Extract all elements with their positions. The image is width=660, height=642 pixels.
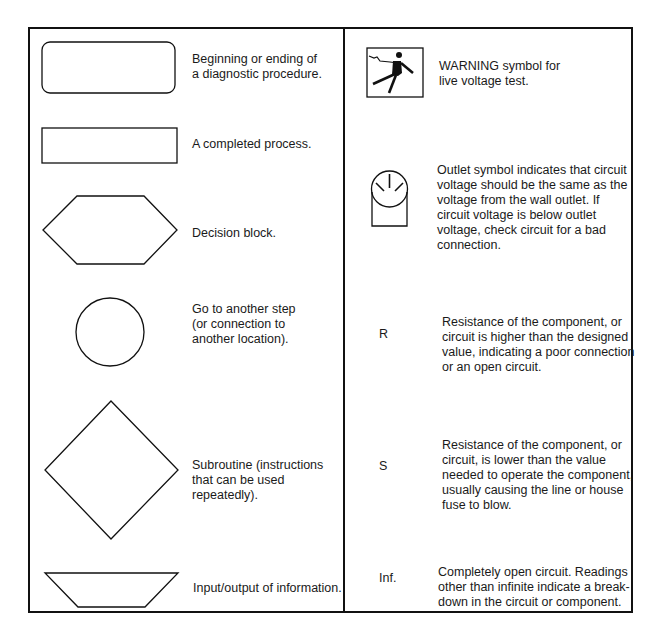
legend-item-diamond: Subroutine (instructions that can be use… — [192, 458, 323, 503]
description-line: Resistance of the component, or — [442, 438, 633, 453]
description-line: usually causing the line or house — [442, 483, 633, 498]
description-line: live voltage test. — [439, 74, 560, 89]
legend-item-rounded-rectangle: Beginning or ending of a diagnostic proc… — [192, 52, 322, 82]
description-line: Go to another step — [192, 302, 296, 317]
description-line: Decision block. — [192, 226, 276, 241]
rounded-rectangle-symbol — [42, 42, 175, 93]
description-line: other than infinite indicate a break- — [438, 580, 630, 595]
description-line: Input/output of information. — [193, 581, 342, 596]
legend-item-open-circuit: Completely open circuit. Readings other … — [438, 565, 630, 610]
description-line: fuse to blow. — [442, 498, 633, 513]
trapezoid-symbol — [45, 573, 178, 607]
description-line: circuit voltage is below outlet — [437, 208, 627, 223]
description-line: a diagnostic procedure. — [192, 67, 322, 82]
description-line: value, indicating a poor connection — [442, 345, 635, 360]
description-line: Subroutine (instructions — [192, 458, 323, 473]
legend-item-warning: WARNING symbol for live voltage test. — [439, 59, 560, 89]
legend-item-trapezoid: Input/output of information. — [193, 581, 342, 596]
legend-item-resistance-low: Resistance of the component, or circuit,… — [442, 438, 633, 513]
description-line: that can be used — [192, 473, 323, 488]
description-line: repeatedly). — [192, 488, 323, 503]
outlet-icon — [372, 171, 408, 226]
description-line: WARNING symbol for — [439, 59, 560, 74]
diamond-symbol — [45, 401, 178, 539]
description-line: Completely open circuit. Readings — [438, 565, 630, 580]
description-line: another location). — [192, 332, 296, 347]
legend-item-rectangle: A completed process. — [192, 137, 312, 152]
rectangle-symbol — [42, 128, 177, 163]
resistance-low-code: S — [379, 459, 387, 473]
warning-electric-shock-icon — [367, 48, 423, 97]
infinite-resistance-code: Inf. — [379, 571, 396, 585]
legend-item-outlet: Outlet symbol indicates that circuit vol… — [437, 163, 627, 253]
description-line: (or connection to — [192, 317, 296, 332]
description-line: or an open circuit. — [442, 360, 635, 375]
description-line: Beginning or ending of — [192, 52, 322, 67]
description-line: voltage should be the same as the — [437, 178, 627, 193]
description-line: voltage from the wall outlet. If — [437, 193, 627, 208]
description-line: Resistance of the component, or — [442, 315, 635, 330]
legend-item-resistance-high: Resistance of the component, or circuit … — [442, 315, 635, 375]
legend-item-hexagon: Decision block. — [192, 226, 276, 241]
resistance-high-code: R — [379, 327, 388, 341]
description-line: voltage, check circuit for a bad — [437, 223, 627, 238]
description-line: connection. — [437, 238, 627, 253]
description-line: down in the circuit or component. — [438, 595, 630, 610]
description-line: circuit is higher than the designed — [442, 330, 635, 345]
hexagon-symbol — [43, 196, 177, 264]
legend-item-circle: Go to another step (or connection to ano… — [192, 302, 296, 347]
description-line: circuit, is lower than the value — [442, 453, 633, 468]
circle-symbol — [76, 298, 144, 366]
description-line: needed to operate the component, — [442, 468, 633, 483]
description-line: Outlet symbol indicates that circuit — [437, 163, 627, 178]
description-line: A completed process. — [192, 137, 312, 152]
